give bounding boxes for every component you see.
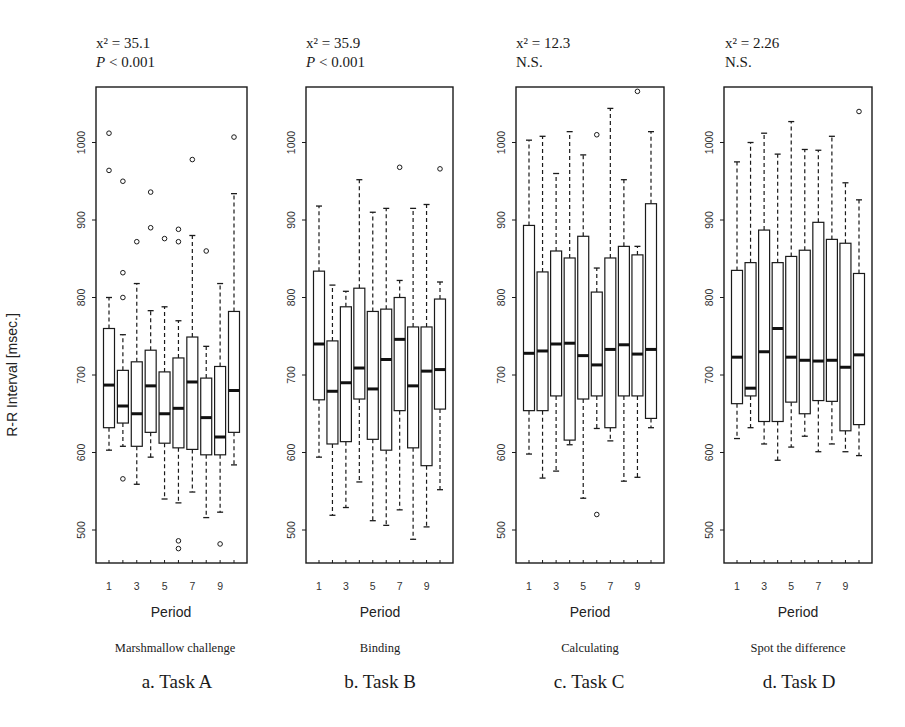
box-period-9 — [215, 284, 226, 547]
panel-title-a: a. Task A — [77, 671, 277, 693]
y-tick-label: 600 — [285, 444, 297, 462]
iqr-box — [646, 204, 657, 419]
box-period-1 — [732, 162, 743, 439]
outlier-point — [190, 157, 195, 162]
box-period-7 — [813, 150, 824, 451]
box-period-8 — [618, 180, 629, 481]
outlier-point — [107, 131, 112, 136]
outlier-point — [232, 135, 237, 140]
panel-d: 500600700800900100013579 — [703, 87, 872, 592]
panel-b: 500600700800900100013579 — [285, 87, 453, 592]
box-period-6 — [799, 149, 810, 436]
x-axis-label-b: Period — [305, 604, 455, 620]
x-tick-label: 7 — [189, 580, 195, 592]
iqr-box — [537, 272, 548, 411]
iqr-box — [394, 298, 405, 411]
outlier-point — [148, 190, 153, 195]
box-period-5 — [159, 236, 170, 499]
iqr-box — [854, 273, 865, 424]
iqr-box — [840, 243, 851, 431]
outlier-point — [162, 236, 167, 241]
box-period-6 — [591, 132, 602, 516]
iqr-box — [104, 329, 115, 428]
x-tick-label: 3 — [134, 580, 140, 592]
box-period-7 — [394, 165, 405, 510]
iqr-box — [117, 370, 128, 423]
y-tick-label: 800 — [495, 289, 507, 307]
outlier-point — [121, 295, 126, 300]
outlier-point — [397, 165, 402, 170]
iqr-box — [605, 258, 616, 428]
box-period-2 — [537, 136, 548, 478]
x-tick-label: 7 — [397, 580, 403, 592]
y-tick-label: 800 — [703, 289, 715, 307]
box-period-10 — [646, 132, 657, 428]
iqr-box — [578, 236, 589, 399]
y-tick-label: 900 — [75, 211, 87, 229]
outlier-point — [148, 225, 153, 230]
outlier-point — [594, 512, 599, 517]
box-period-1 — [314, 206, 325, 457]
x-tick-label: 1 — [316, 580, 322, 592]
box-period-10 — [854, 109, 865, 455]
box-period-9 — [632, 89, 643, 477]
iqr-box — [564, 258, 575, 440]
x-tick-label: 7 — [815, 580, 821, 592]
x-tick-label: 9 — [217, 580, 223, 592]
panel-a: 500600700800900100013579 — [75, 87, 247, 592]
iqr-box — [759, 230, 770, 421]
box-period-6 — [381, 208, 392, 525]
x-tick-label: 1 — [734, 580, 740, 592]
iqr-box — [772, 263, 783, 422]
box-period-10 — [435, 167, 446, 490]
y-tick-label: 1000 — [75, 131, 87, 155]
box-period-3 — [131, 239, 142, 484]
iqr-box — [173, 358, 184, 448]
iqr-box — [799, 250, 810, 414]
outlier-point — [218, 542, 223, 547]
outlier-point — [121, 270, 126, 275]
outlier-point — [107, 168, 112, 173]
task-name-c: Calculating — [490, 641, 690, 656]
y-tick-label: 500 — [75, 521, 87, 539]
outlier-point — [121, 179, 126, 184]
box-period-5 — [367, 212, 378, 520]
iqr-box — [131, 362, 142, 446]
iqr-box — [215, 366, 226, 454]
box-period-2 — [327, 285, 338, 515]
box-period-3 — [340, 291, 351, 507]
x-tick-label: 5 — [370, 580, 376, 592]
task-name-d: Spot the difference — [698, 641, 898, 656]
x-tick-label: 5 — [580, 580, 586, 592]
box-period-3 — [551, 174, 562, 472]
y-tick-label: 500 — [703, 521, 715, 539]
box-period-10 — [229, 135, 240, 465]
iqr-box — [340, 307, 351, 442]
box-period-5 — [578, 155, 589, 498]
x-tick-label: 9 — [635, 580, 641, 592]
iqr-box — [435, 299, 446, 409]
outlier-point — [176, 546, 181, 551]
y-tick-label: 700 — [495, 366, 507, 384]
box-period-8 — [826, 136, 837, 444]
iqr-box — [813, 222, 824, 400]
y-tick-label: 1000 — [703, 131, 715, 155]
x-tick-label: 5 — [788, 580, 794, 592]
iqr-box — [732, 270, 743, 403]
plot-frame — [96, 87, 247, 563]
x-tick-label: 7 — [607, 580, 613, 592]
outlier-point — [635, 89, 640, 94]
iqr-box — [632, 255, 643, 396]
iqr-box — [618, 246, 629, 396]
y-tick-label: 700 — [703, 366, 715, 384]
x-axis-label-a: Period — [96, 604, 246, 620]
box-period-4 — [145, 190, 156, 457]
iqr-box — [159, 372, 170, 443]
x-tick-label: 9 — [424, 580, 430, 592]
y-tick-label: 700 — [75, 366, 87, 384]
iqr-box — [421, 327, 432, 466]
box-period-7 — [187, 157, 198, 492]
panel-title-b: b. Task B — [280, 671, 480, 693]
box-period-6 — [173, 227, 184, 551]
y-tick-label: 800 — [285, 289, 297, 307]
